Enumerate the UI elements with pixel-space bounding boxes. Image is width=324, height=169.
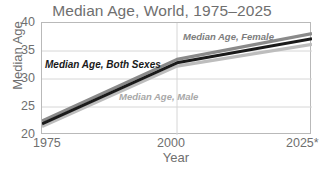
x-tick-label-2000: 2000 (146, 136, 196, 150)
x-tick-label-2025: 2025* (286, 136, 319, 150)
series-label-both-sexes: Median Age, Both Sexes (45, 59, 161, 70)
series-label-female: Median Age, Female (183, 31, 274, 42)
chart-title: Median Age, World, 1975–2025 (0, 2, 324, 20)
y-tick-label-30: 30 (5, 71, 35, 85)
y-tick-label-35: 35 (5, 43, 35, 57)
series-line-male (42, 44, 312, 126)
y-tick-label-25: 25 (5, 99, 35, 113)
x-axis-title: Year (41, 150, 311, 165)
y-tick-label-40: 40 (5, 15, 35, 29)
y-tick-label-20: 20 (5, 127, 35, 141)
x-tick-label-1975: 1975 (33, 136, 61, 150)
series-label-male: Median Age, Male (119, 91, 198, 102)
chart-container: Median Age, World, 1975–2025 Median Age … (0, 0, 324, 169)
